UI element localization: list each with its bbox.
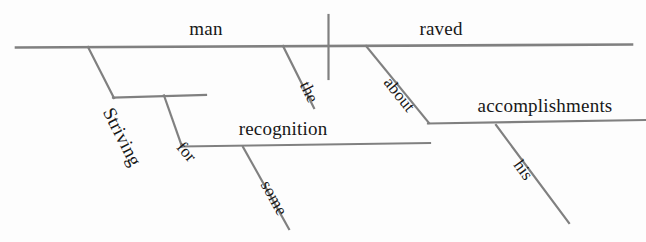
sentence-diagram-canvas: manravedrecognitionaccomplishmentsStrivi…	[0, 0, 646, 242]
diagram-line-participle-slant	[88, 47, 114, 98]
diagram-word-subject[interactable]: man	[189, 18, 222, 40]
diagram-word-predicate[interactable]: raved	[419, 18, 462, 40]
diagram-word-object-of-preposition-2[interactable]: accomplishments	[478, 95, 613, 117]
diagram-word-object-of-preposition-1[interactable]: recognition	[239, 118, 328, 140]
diagram-line-participle-baseline	[113, 95, 206, 98]
diagram-line-accomplishments-baseline	[428, 120, 645, 124]
diagram-line-recognition-baseline	[181, 143, 430, 147]
diagram-line-for-slant	[164, 96, 182, 147]
diagram-line-main-baseline	[16, 45, 632, 48]
